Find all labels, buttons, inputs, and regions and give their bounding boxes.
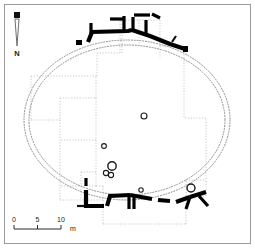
north-arrow-icon: N xyxy=(14,12,20,58)
oval-enclosure-ring xyxy=(24,40,230,200)
south-wall-dash xyxy=(158,200,170,201)
scale-bar-rule xyxy=(14,225,61,229)
wall-block xyxy=(183,46,188,52)
scale-tick-10: 10 xyxy=(57,216,65,223)
wall-tick xyxy=(172,36,176,42)
scale-tick-5: 5 xyxy=(36,216,40,223)
north-wall-main xyxy=(88,30,132,42)
posthole xyxy=(141,113,147,119)
posthole xyxy=(187,184,195,192)
site-plan-canvas: N 0 5 10 m xyxy=(0,0,255,248)
posthole xyxy=(102,144,107,149)
posthole xyxy=(108,172,113,177)
north-label: N xyxy=(14,49,19,58)
posthole xyxy=(108,162,116,170)
enclosure-outer-ring xyxy=(24,40,230,200)
scale-bar-icon: 0 5 10 m xyxy=(12,216,76,232)
south-wall-midwest xyxy=(107,195,130,206)
north-wall-segment xyxy=(76,14,188,52)
posthole xyxy=(139,188,143,192)
wall-block xyxy=(76,40,82,45)
wall-bar xyxy=(152,14,160,18)
enclosure-inner-ring xyxy=(29,45,225,195)
posthole-markers xyxy=(102,113,195,192)
scale-tick-0: 0 xyxy=(12,216,16,223)
posthole xyxy=(103,170,108,175)
site-plan-figure: N 0 5 10 m xyxy=(0,0,255,248)
south-wall-segment xyxy=(77,178,208,209)
north-wall-east xyxy=(132,30,185,49)
scale-unit-label: m xyxy=(70,225,76,232)
north-arrow-needle xyxy=(15,19,19,46)
wall-spur xyxy=(199,196,208,206)
north-arrow-head xyxy=(14,12,20,18)
